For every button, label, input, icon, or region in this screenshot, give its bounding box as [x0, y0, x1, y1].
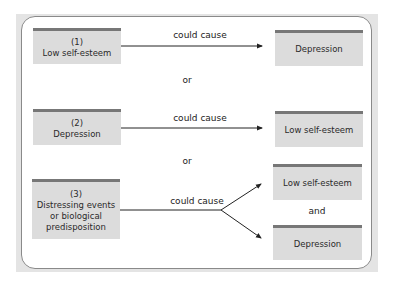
effect-box-1: Depression	[275, 30, 363, 66]
effect-box-3b: Depression	[273, 225, 362, 260]
relation-label-2: could cause	[160, 113, 240, 123]
cause-text: Low self-esteem	[43, 48, 112, 59]
relation-label-3: could cause	[157, 196, 237, 206]
cause-box-3: (3) Distressing events or biological pre…	[32, 179, 120, 239]
effect-text: Depression	[295, 44, 343, 55]
separator-or-2: or	[177, 156, 197, 166]
cause-text-line-2: or biological	[50, 211, 102, 222]
effect-text: Low self-esteem	[283, 178, 352, 189]
effect-box-3a: Low self-esteem	[273, 164, 362, 200]
relation-label-1: could cause	[160, 30, 240, 40]
arrow-3-down	[221, 210, 261, 238]
cause-number: (1)	[71, 37, 83, 48]
cause-box-1: (1) Low self-esteem	[33, 28, 121, 64]
effect-box-2: Low self-esteem	[275, 111, 363, 147]
cause-text-line-3: predisposition	[46, 222, 106, 233]
cause-number: (2)	[71, 118, 83, 129]
effect-text: Low self-esteem	[285, 125, 354, 136]
cause-box-2: (2) Depression	[33, 109, 121, 145]
separator-or-1: or	[177, 75, 197, 85]
cause-text: Depression	[53, 129, 101, 140]
effects-joiner-and: and	[302, 206, 332, 216]
cause-text-line-1: Distressing events	[37, 200, 116, 211]
cause-number: (3)	[70, 189, 82, 200]
effect-text: Depression	[294, 239, 342, 250]
